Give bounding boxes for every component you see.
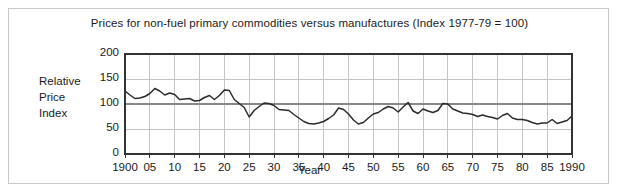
y-axis-tick-label: 200 [83,46,119,58]
y-axis-tick-label: 150 [83,71,119,83]
plot-area-container: 050100150200 190005101520253035404550556… [9,9,610,185]
x-axis-title: Year [9,164,610,176]
y-axis-tick-label: 100 [83,96,119,108]
chart-figure-panel: Prices for non-fuel primary commodities … [8,8,609,184]
y-axis-caption-line-2: Price [39,91,65,103]
y-axis-tick-label: 0 [83,146,119,158]
y-axis-caption-line-3: Index [39,107,67,119]
y-axis-tick-label: 50 [83,121,119,133]
y-axis-caption-line-1: Relative [39,75,81,87]
